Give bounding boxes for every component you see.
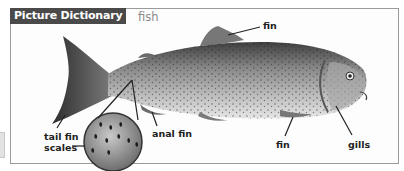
label-fin-top: fin bbox=[263, 20, 277, 31]
label-fin-bottom: fin bbox=[276, 139, 290, 150]
tail-fin-shape bbox=[52, 36, 112, 124]
label-tail-fin: tail fin bbox=[44, 131, 79, 142]
label-scales: scales bbox=[44, 142, 77, 153]
label-gills: gills bbox=[348, 139, 370, 150]
label-anal-fin: anal fin bbox=[152, 128, 192, 139]
scales-magnifier bbox=[84, 113, 142, 171]
